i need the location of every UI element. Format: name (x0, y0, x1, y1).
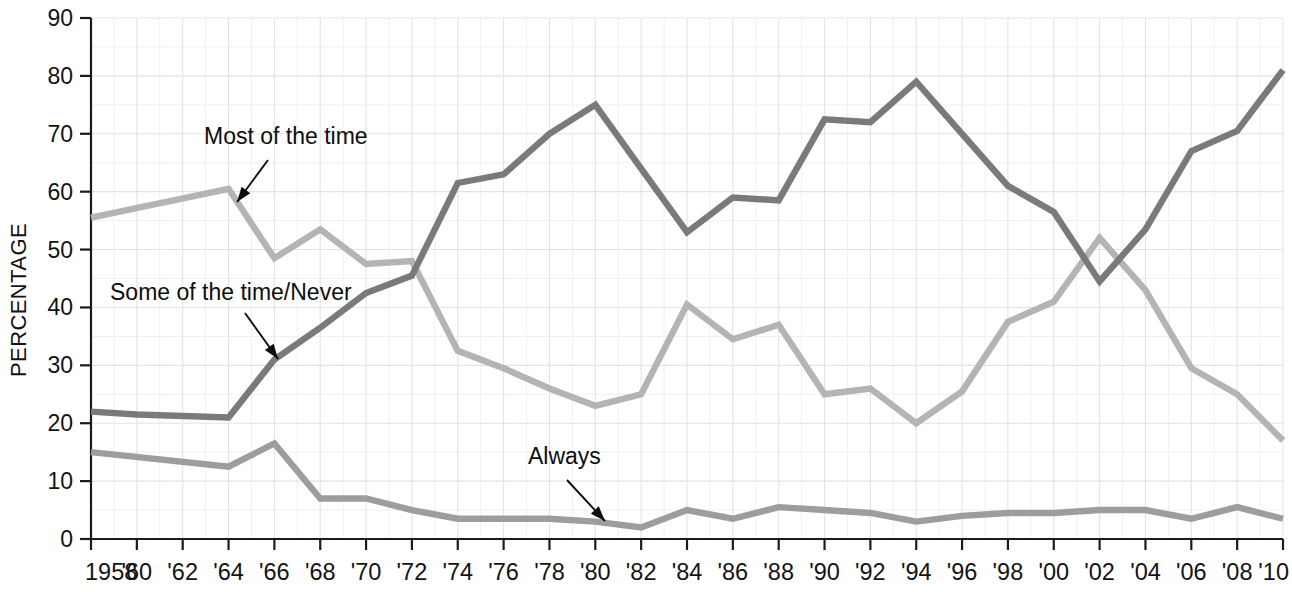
y-axis-tick-labels: 0102030405060708090 (47, 5, 73, 552)
annotation-arrowhead-most-of-the-time (237, 187, 250, 202)
y-axis-ticks (80, 18, 91, 539)
x-tick-label-1966: '66 (259, 559, 290, 585)
x-tick-label-1992: '92 (855, 559, 886, 585)
y-tick-label-30: 30 (47, 352, 73, 378)
x-tick-label-1968: '68 (305, 559, 336, 585)
x-tick-label-1990: '90 (809, 559, 840, 585)
y-tick-label-40: 40 (47, 294, 73, 320)
x-tick-label-2000: '00 (1038, 559, 1069, 585)
chart-page: 0102030405060708090 1958'60'62'64'66'68'… (0, 0, 1292, 592)
x-tick-label-1986: '86 (718, 559, 749, 585)
x-axis-ticks (91, 539, 1283, 550)
x-tick-label-1962: '62 (167, 559, 198, 585)
annotation-label-most-of-the-time: Most of the time (204, 123, 368, 149)
y-tick-label-0: 0 (60, 526, 73, 552)
y-tick-label-60: 60 (47, 179, 73, 205)
y-tick-label-50: 50 (47, 237, 73, 263)
x-tick-label-1978: '78 (534, 559, 565, 585)
x-tick-label-1998: '98 (993, 559, 1024, 585)
x-tick-label-1970: '70 (351, 559, 382, 585)
x-tick-label-1972: '72 (397, 559, 428, 585)
y-tick-label-20: 20 (47, 410, 73, 436)
y-tick-label-80: 80 (47, 63, 73, 89)
x-tick-label-1996: '96 (947, 559, 978, 585)
y-tick-label-70: 70 (47, 121, 73, 147)
x-tick-label-1982: '82 (626, 559, 657, 585)
x-axis-tick-labels: 1958'60'62'64'66'68'70'72'74'76'78'80'82… (85, 559, 1289, 585)
line-chart: 0102030405060708090 1958'60'62'64'66'68'… (0, 0, 1292, 592)
x-tick-label-1988: '88 (763, 559, 794, 585)
y-axis-title: PERCENTAGE (6, 223, 31, 377)
x-tick-label-1984: '84 (672, 559, 703, 585)
y-tick-label-10: 10 (47, 468, 73, 494)
y-tick-label-90: 90 (47, 5, 73, 31)
x-tick-label-2008: '08 (1222, 559, 1253, 585)
x-tick-label-1974: '74 (442, 559, 473, 585)
x-tick-label-2010: '10 (1258, 559, 1289, 585)
x-tick-label-1976: '76 (488, 559, 519, 585)
x-tick-label-1960: '60 (122, 559, 153, 585)
annotation-label-some-of-the-time-never: Some of the time/Never (110, 279, 352, 305)
annotation-arrowhead-some-of-the-time-never (265, 344, 278, 359)
x-tick-label-1964: '64 (213, 559, 244, 585)
x-tick-label-1980: '80 (580, 559, 611, 585)
annotation-label-always: Always (528, 443, 601, 469)
x-tick-label-2006: '06 (1176, 559, 1207, 585)
x-tick-label-2002: '02 (1084, 559, 1115, 585)
x-tick-label-1994: '94 (901, 559, 932, 585)
x-tick-label-2004: '04 (1130, 559, 1161, 585)
